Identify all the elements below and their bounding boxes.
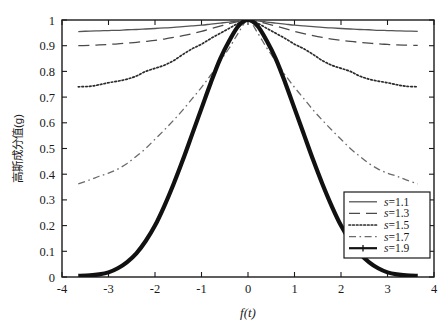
series-s-1-7 [78,20,417,184]
x-tick-label: -4 [57,282,68,296]
legend-label: s=1.3 [384,207,410,219]
y-axis-title: 高斯成分值(g) [11,114,24,183]
x-tick-label: 4 [431,282,438,296]
legend-label: s=1.9 [384,242,410,254]
x-tick-label: 0 [245,282,251,296]
y-tick-label: 0.5 [39,142,55,156]
chart-legend[interactable]: s=1.1s=1.3s=1.5s=1.7s=1.9 [344,192,430,258]
legend-label: s=1.1 [384,196,410,208]
y-tick-label: 0.2 [39,219,55,233]
legend-label: s=1.5 [384,219,410,231]
y-tick-label: 0.9 [39,39,55,53]
y-tick-label: 0.3 [39,193,55,207]
y-tick-label: 0.1 [39,245,55,259]
y-tick-label: 0.7 [39,91,55,105]
x-tick-label: 1 [291,282,297,296]
x-tick-label: -1 [196,282,206,296]
y-tick-label: 0.4 [39,168,55,182]
legend-label: s=1.7 [384,231,410,243]
x-tick-label: -2 [150,282,160,296]
x-tick-label: 3 [384,282,390,296]
figure-container: -4-3-2-10123400.10.20.30.40.50.60.70.80.… [0,0,448,327]
y-tick-label: 1 [49,14,55,28]
series-line [78,20,417,184]
chart-canvas: -4-3-2-10123400.10.20.30.40.50.60.70.80.… [0,0,448,327]
x-axis-title: f(t) [240,305,256,320]
x-tick-label: -3 [103,282,113,296]
axis-labels-group: -4-3-2-10123400.10.20.30.40.50.60.70.80.… [11,14,438,321]
x-tick-label: 2 [338,282,344,296]
y-tick-label: 0 [49,271,55,285]
y-tick-label: 0.8 [39,65,55,79]
y-tick-label: 0.6 [39,116,55,130]
